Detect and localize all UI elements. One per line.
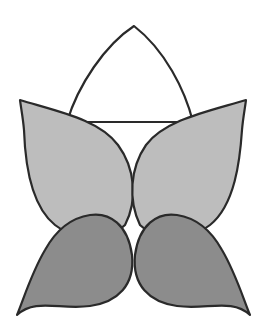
top-petal (67, 26, 193, 122)
lower-left-petal (17, 215, 132, 315)
flower-figure (0, 0, 264, 331)
lower-right-petal (135, 215, 250, 315)
